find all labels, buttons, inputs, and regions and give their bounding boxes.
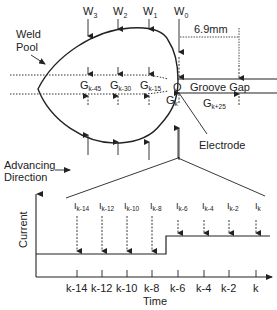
current-labels: Ik-14 Ik-12 Ik-10 Ik-8 Ik-6 Ik-4 Ik-2 Ik [74,201,262,212]
svg-text:W3: W3 [83,5,97,19]
tick-label-k-8: k-8 [144,282,159,294]
y-axis-label: Current [17,211,29,248]
advancing-direction-label-2: Direction [4,171,47,183]
tick-label-k-6: k-6 [170,282,185,294]
gap-label-k-30: Gk-30 [110,79,132,92]
current-label-k-12: Ik-12 [99,201,115,212]
weld-pool-leader [31,55,45,64]
x-axis-label: Time [143,295,167,307]
current-label-k-10: Ik-10 [124,201,140,212]
tick-label-k-2: k-2 [221,282,236,294]
electrode-symbol: O [173,81,182,93]
svg-text:6.9mm: 6.9mm [194,23,228,35]
tick-label-k: k [253,282,259,294]
weld-pool-label-2: Pool [16,41,38,53]
width-marker-w2: W2 [113,5,127,29]
width-marker-w3: W3 [83,5,97,36]
x-ticks [77,270,256,277]
width-marker-w0: W0 [174,5,188,52]
svg-text:W2: W2 [113,5,127,19]
gap-label-k-15: Gk-15 [140,79,162,92]
current-label-k-14: Ik-14 [74,201,90,212]
tick-label-k-4: k-4 [196,282,211,294]
current-step-line [36,236,270,254]
current-label-k-4: Ik-4 [202,201,214,212]
current-label-k-2: Ik-2 [227,201,239,212]
zoom-line-left [66,158,178,198]
tick-label-k-12: k-12 [91,282,112,294]
gap-label-k-45: Gk-45 [80,79,102,92]
electrode-label: Electrode [199,139,245,151]
current-label-k-8: Ik-8 [150,201,162,212]
current-label-k-6: Ik-6 [176,201,188,212]
groove-gap-label: Groove Gap [190,81,250,93]
distance-dimension: 6.9mm [180,23,239,64]
tick-label-k-10: k-10 [116,282,137,294]
weld-pool-label: Weld [16,28,41,40]
current-time-chart: Current Time k-14 k-12 k-10 k-8 k-6 k-4 … [17,194,272,307]
weld-pool-diagram: Weld Pool W3 W2 W1 W0 [0,0,277,310]
advancing-direction-label: Advancing [4,159,55,171]
gap-label-k+25: Gk+25 [203,97,226,110]
tick-label-k-14: k-14 [66,282,87,294]
svg-text:W1: W1 [143,5,157,19]
svg-text:W0: W0 [174,5,188,19]
current-label-k: Ik [255,201,262,212]
width-marker-w1: W1 [143,5,157,29]
